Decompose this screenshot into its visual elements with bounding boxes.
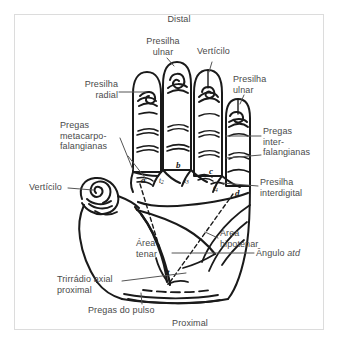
middle-finger-outline — [163, 62, 191, 170]
marker-interdigital-t2: t2 — [159, 176, 164, 187]
label-verticilo-top: Vertícilo — [197, 46, 230, 57]
index-fingerprint-radial-loop — [138, 92, 157, 106]
figure-page: Distal Presilha ulnar Vertícilo Presilha… — [0, 0, 339, 350]
label-presilha-ulnar-right: Presilha ulnar — [233, 74, 266, 95]
label-area-tenar: Área tenar — [136, 238, 157, 259]
little-interphalangeal-creases — [228, 134, 249, 172]
marker-interdigital-t1: t1 — [135, 203, 140, 214]
label-angulo-atd: Ângulo atd — [256, 248, 300, 259]
middle-interphalangeal-creases — [167, 125, 189, 151]
t3-subscript: 3 — [186, 179, 189, 185]
marker-interdigital-t4: t4 — [213, 184, 218, 195]
angulo-atd-text: Ângulo — [256, 248, 287, 258]
label-area-hipotenar: Área hipotenar — [220, 228, 258, 249]
label-pregas-metacarpo-falangianas: Pregas metacarpo- falangianas — [60, 120, 107, 152]
label-pregas-do-pulso: Pregas do pulso — [88, 305, 155, 316]
t2-subscript: 2 — [161, 179, 164, 185]
marker-interdigital-t3: t3 — [184, 176, 189, 187]
label-presilha-interdigital: Presilha interdigital — [260, 177, 302, 198]
marker-axial-triradius-t: t — [167, 268, 170, 277]
index-interphalangeal-creases — [137, 113, 158, 153]
label-distal: Distal — [139, 14, 219, 25]
label-proximal: Proximal — [150, 318, 230, 329]
middle-fingerprint-ulnar-loop — [168, 74, 188, 93]
little-fingerprint-ulnar-loop — [229, 100, 248, 127]
index-finger-outline — [133, 72, 161, 172]
label-presilha-ulnar-top: Presilha ulnar — [132, 36, 194, 57]
t1-subscript: 1 — [137, 206, 140, 212]
label-pregas-inter-falangianas: Pregas inter- falangianas — [263, 126, 310, 158]
marker-triradius-a: a — [141, 176, 146, 185]
angulo-atd-italic: atd — [287, 248, 300, 258]
thumb-fingerprint-whorl — [87, 181, 112, 208]
marker-triradius-c: c — [209, 167, 213, 176]
wrist-creases — [124, 290, 220, 303]
t4-subscript: 4 — [215, 187, 218, 193]
thumb-outline — [79, 178, 139, 282]
marker-triradius-b: b — [176, 161, 181, 170]
ring-interphalangeal-creases — [199, 114, 219, 157]
label-verticilo-left: Vertícilo — [29, 182, 62, 193]
marker-triradius-d: d — [235, 189, 240, 198]
label-trirradio-axial-proximal: Trirrádio axial proximal — [57, 274, 113, 295]
label-presilha-radial: Presilha radial — [58, 79, 118, 100]
ring-fingerprint-whorl — [199, 71, 219, 102]
